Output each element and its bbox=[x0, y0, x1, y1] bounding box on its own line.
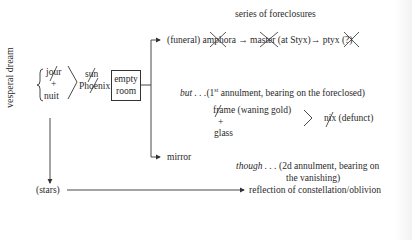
master-label: master (at Styx) bbox=[250, 35, 311, 45]
but-lead: but . . . bbox=[180, 88, 206, 98]
glass-label: glass bbox=[214, 129, 233, 139]
diagram-lines bbox=[0, 0, 412, 210]
series-header: series of foreclosures bbox=[235, 10, 316, 20]
vesperal-dream-label: vesperal dream bbox=[4, 47, 15, 108]
nuit-label: nuit bbox=[44, 92, 59, 102]
frame-label: frame (waning gold) bbox=[213, 106, 291, 116]
mirror-label: mirror bbox=[167, 153, 191, 163]
upper-branch: (funeral) amphora → master (at Styx)→ pt… bbox=[167, 36, 352, 46]
question-label: (?) bbox=[342, 35, 353, 45]
sun-label: sun bbox=[85, 70, 98, 80]
though-lead: though . . . bbox=[236, 161, 277, 171]
ptyx-label: ptyx bbox=[323, 35, 340, 45]
left-brace-icon bbox=[37, 69, 43, 101]
merge-bracket-icon bbox=[68, 66, 77, 99]
funeral-label: (funeral) bbox=[167, 35, 200, 45]
empty-room-box: empty room bbox=[111, 70, 141, 101]
stars-label: (stars) bbox=[36, 186, 60, 196]
mirror-bracket-icon bbox=[304, 110, 312, 126]
plus-sign: + bbox=[51, 80, 56, 90]
reflection-label: reflection of constellation/oblivion bbox=[249, 186, 381, 196]
though-note-line1: though . . . (2d annulment, bearing on bbox=[236, 162, 379, 172]
nix-label: nix (defunct) bbox=[324, 114, 373, 124]
box-line-1: empty bbox=[112, 73, 140, 85]
box-line-2: room bbox=[112, 85, 140, 97]
arrow-icon: → bbox=[238, 35, 248, 45]
phoenix-label: Phoenix bbox=[79, 82, 110, 92]
arrow-icon: → bbox=[311, 35, 321, 45]
amphora-label: amphora bbox=[203, 35, 236, 45]
but-note: but . . .(1st annulment, bearing on the … bbox=[180, 89, 365, 99]
jour-label: jour bbox=[46, 68, 61, 78]
though-note-line2: the vanishing) bbox=[286, 174, 340, 184]
but-note-text: annulment, bearing on the foreclosed) bbox=[218, 88, 365, 98]
plus-sign-2: + bbox=[218, 118, 223, 128]
